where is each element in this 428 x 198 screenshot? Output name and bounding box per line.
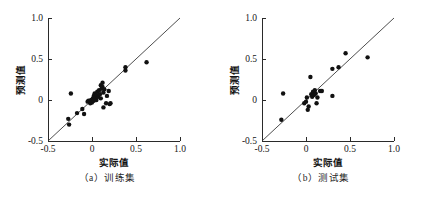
panel-test-set: -0.500.51.0-0.500.51.0实际值预测值 （b）测试集 [214, 0, 428, 198]
x-tick-label: 0.5 [130, 144, 142, 154]
y-tick-label: 1.0 [245, 13, 257, 23]
data-point [330, 94, 334, 98]
data-point [308, 75, 312, 79]
panel-training-set: -0.500.51.0-0.500.51.0实际值预测值 （a）训练集 [0, 0, 214, 198]
data-point [314, 101, 318, 105]
data-point [102, 87, 106, 91]
data-point [105, 94, 109, 98]
scatter-plot-training: -0.500.51.0-0.500.51.0实际值预测值 [0, 0, 214, 170]
x-tick-label: 1.0 [388, 144, 400, 154]
data-point [306, 104, 310, 108]
y-tick-label: 0 [252, 95, 257, 105]
data-point [107, 89, 111, 93]
data-point [304, 99, 308, 103]
data-point [320, 89, 324, 93]
data-point [100, 81, 104, 85]
y-tick-label: 0.5 [245, 54, 257, 64]
data-point [82, 112, 86, 116]
panel-caption-b: （b）测试集 [214, 170, 428, 184]
x-tick-label: 0 [304, 144, 309, 154]
y-tick-label: 1.0 [31, 13, 43, 23]
x-axis-title: 实际值 [99, 157, 129, 168]
data-point [365, 55, 369, 59]
y-tick-label: -0.5 [28, 136, 43, 146]
data-point [99, 96, 103, 100]
x-axis-title: 实际值 [313, 157, 343, 168]
y-axis-title: 预测值 [15, 65, 26, 95]
data-point [67, 122, 71, 126]
data-point [343, 51, 347, 55]
data-point [336, 65, 340, 69]
data-point [80, 107, 84, 111]
x-tick-label: 0 [90, 144, 95, 154]
figure-container: -0.500.51.0-0.500.51.0实际值预测值 （a）训练集 -0.5… [0, 0, 428, 198]
y-tick-label: 0 [38, 95, 43, 105]
data-point [313, 91, 317, 95]
y-tick-label: 0.5 [31, 54, 43, 64]
data-point [330, 67, 334, 71]
data-point [279, 117, 283, 121]
panel-caption-a: （a）训练集 [0, 170, 214, 184]
data-point [108, 101, 112, 105]
data-point [123, 68, 127, 72]
data-point [69, 91, 73, 95]
reference-line [262, 18, 394, 141]
data-point [305, 95, 309, 99]
x-tick-label: 0.5 [344, 144, 356, 154]
data-point [281, 91, 285, 95]
data-point [315, 95, 319, 99]
x-tick-label: 1.0 [174, 144, 186, 154]
data-point [66, 117, 70, 121]
scatter-plot-test: -0.500.51.0-0.500.51.0实际值预测值 [214, 0, 428, 170]
data-point [101, 105, 105, 109]
data-point [75, 111, 79, 115]
reference-line [48, 18, 180, 141]
data-point [144, 60, 148, 64]
y-axis-title: 预测值 [229, 65, 240, 95]
y-tick-label: -0.5 [242, 136, 257, 146]
